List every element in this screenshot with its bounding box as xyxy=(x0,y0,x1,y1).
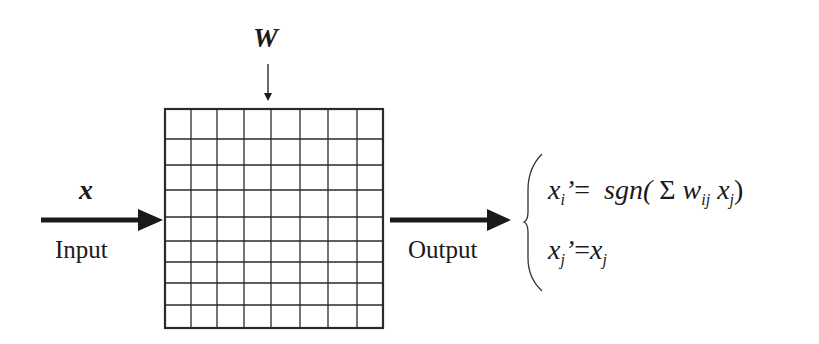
matrix-label: W xyxy=(253,22,278,54)
input-symbol: x xyxy=(79,174,93,206)
input-label: Input xyxy=(55,236,108,264)
equation-update-rule: xi’= sgn( Σ wij xj) xyxy=(548,174,743,209)
left-brace-icon xyxy=(524,154,542,291)
output-label: Output xyxy=(408,236,477,264)
output-arrow-icon xyxy=(390,209,511,231)
weight-arrow-icon xyxy=(264,64,272,101)
equation-copy-rule: xj’=xj xyxy=(548,234,607,269)
diagram-canvas xyxy=(0,0,819,344)
weight-matrix-grid xyxy=(165,109,383,328)
input-arrow-icon xyxy=(41,209,163,231)
